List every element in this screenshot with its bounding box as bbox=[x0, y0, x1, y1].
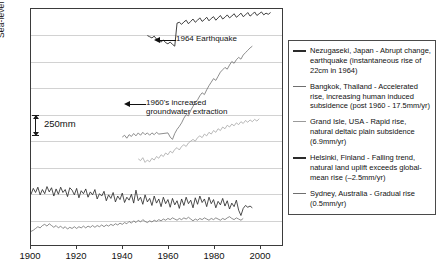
x-axis-tick bbox=[214, 246, 215, 249]
x-axis: 190019201940196019802000 bbox=[30, 246, 283, 268]
x-axis-tick-label: 1920 bbox=[65, 250, 86, 261]
legend-line-swatch bbox=[293, 193, 306, 194]
x-axis-tick bbox=[30, 246, 31, 249]
x-axis-tick bbox=[260, 246, 261, 249]
legend: Nezugaseki, Japan - Abrupt change, earth… bbox=[288, 40, 436, 215]
legend-label: Nezugaseki, Japan - Abrupt change, earth… bbox=[310, 46, 431, 76]
annotation-groundwater-line1: 1960's increased bbox=[146, 98, 206, 107]
legend-line-swatch bbox=[293, 86, 306, 87]
series-line bbox=[31, 217, 243, 232]
scale-bar-label: 250mm bbox=[44, 118, 76, 129]
legend-entry: Sydney, Australia - Gradual rise (0.5mm/… bbox=[293, 189, 431, 209]
x-axis-tick-label: 1980 bbox=[203, 250, 224, 261]
legend-entry: Helsinki, Finland - Falling trend, natur… bbox=[293, 153, 431, 183]
x-axis-tick bbox=[168, 246, 169, 249]
annotation-arrow-icon bbox=[154, 37, 176, 44]
legend-label: Sydney, Australia - Gradual rise (0.5mm/… bbox=[310, 189, 431, 209]
annotation-arrow-icon bbox=[124, 101, 146, 108]
annotation-groundwater-line2: groundwater extraction bbox=[146, 107, 227, 116]
series-line bbox=[122, 46, 252, 139]
series-line bbox=[138, 119, 259, 163]
scale-bar-cap-top bbox=[32, 115, 39, 116]
x-axis-tick bbox=[122, 246, 123, 249]
legend-entry: Nezugaseki, Japan - Abrupt change, earth… bbox=[293, 46, 431, 76]
x-axis-tick bbox=[76, 246, 77, 249]
legend-label: Helsinki, Finland - Falling trend, natur… bbox=[310, 153, 431, 183]
annotation-groundwater: 1960's increased groundwater extraction bbox=[146, 98, 227, 117]
sea-level-records-chart: Sea-level records 250mm 1964 Earthquake … bbox=[0, 0, 439, 271]
scale-bar: 250mm bbox=[32, 112, 106, 138]
legend-line-swatch bbox=[293, 50, 306, 52]
x-axis-tick-label: 1940 bbox=[111, 250, 132, 261]
annotation-earthquake: 1964 Earthquake bbox=[176, 34, 237, 43]
legend-line-swatch bbox=[293, 121, 306, 122]
legend-entry: Grand Isle, USA - Rapid rise, natural de… bbox=[293, 117, 431, 147]
legend-entry: Bangkok, Thailand - Accelerated rise, in… bbox=[293, 82, 431, 112]
x-axis-tick-label: 1960 bbox=[157, 250, 178, 261]
x-axis-tick-label: 1900 bbox=[19, 250, 40, 261]
series-line bbox=[31, 187, 252, 216]
scale-bar-cap-bottom bbox=[32, 135, 39, 136]
legend-label: Bangkok, Thailand - Accelerated rise, in… bbox=[310, 82, 431, 112]
y-axis-label: Sea-level records bbox=[0, 0, 6, 64]
legend-label: Grand Isle, USA - Rapid rise, natural de… bbox=[310, 117, 431, 147]
annotation-earthquake-text: 1964 Earthquake bbox=[176, 34, 237, 43]
x-axis-tick-label: 2000 bbox=[249, 250, 270, 261]
legend-line-swatch bbox=[293, 157, 306, 159]
